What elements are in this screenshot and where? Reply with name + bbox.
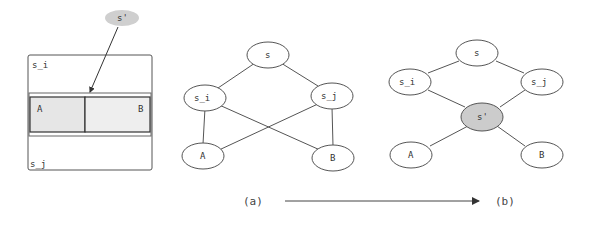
outer-top-label: s_i (32, 60, 48, 70)
node-sj-label: s_j (321, 91, 337, 101)
inserted-node-label: s' (117, 13, 128, 23)
edge-sprime-b (497, 126, 525, 146)
cell-b (85, 97, 150, 132)
diagram-canvas: s_i A B s_j s' s s_i s_j A B (0, 0, 607, 227)
outer-bottom-label: s_j (30, 159, 46, 169)
edge-s-sj (281, 63, 318, 86)
edge-si-a (203, 108, 205, 144)
edge-s-sj (496, 61, 524, 73)
node-si-label: s_i (194, 93, 210, 103)
cell-b-label: B (138, 104, 143, 114)
edge-s-si (428, 61, 459, 73)
node-s-prime-label: s' (477, 112, 488, 122)
edge-sj-sprime (500, 90, 525, 107)
caption: (a) (b) (243, 195, 515, 208)
caption-b-label: (b) (495, 195, 515, 208)
edge-si-sprime (428, 90, 465, 107)
edge-s-si (218, 63, 255, 88)
node-si-label: s_i (399, 77, 415, 87)
node-sj-label: s_j (531, 77, 547, 87)
edge-sj-b (332, 107, 333, 146)
node-a-label: A (408, 150, 414, 160)
node-b-label: B (539, 150, 544, 160)
node-s-label: s (265, 50, 270, 60)
node-a-label: A (200, 151, 206, 161)
graph-a: s s_i s_j A B (182, 42, 354, 171)
caption-a-label: (a) (243, 195, 263, 208)
graph-b: s s_i s_j s' A B (389, 40, 563, 168)
edge-sprime-a (430, 126, 468, 146)
node-s-label: s (474, 48, 479, 58)
node-b-label: B (330, 153, 335, 163)
cell-a-label: A (37, 104, 43, 114)
left-panel: s_i A B s_j s' (28, 10, 152, 170)
cell-a (30, 97, 85, 132)
